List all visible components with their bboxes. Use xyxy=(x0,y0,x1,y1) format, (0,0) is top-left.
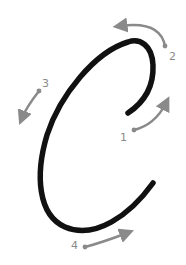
step-4-label: 4 xyxy=(71,239,78,252)
arrow-step-3: 3 xyxy=(22,77,49,118)
arrow-step-4: 4 xyxy=(71,233,127,252)
step-3-label: 3 xyxy=(42,77,49,90)
arrow-4-icon xyxy=(85,233,127,247)
step-2-label: 2 xyxy=(169,50,176,63)
arrow-3-icon xyxy=(22,91,39,118)
step-1-label: 1 xyxy=(120,131,127,144)
arrow-step-1: 1 xyxy=(120,103,166,144)
stroke-order-diagram: 1 2 3 4 xyxy=(0,0,186,265)
letter-c-stroke xyxy=(40,41,153,231)
diagram-svg: 1 2 3 4 xyxy=(0,0,186,265)
